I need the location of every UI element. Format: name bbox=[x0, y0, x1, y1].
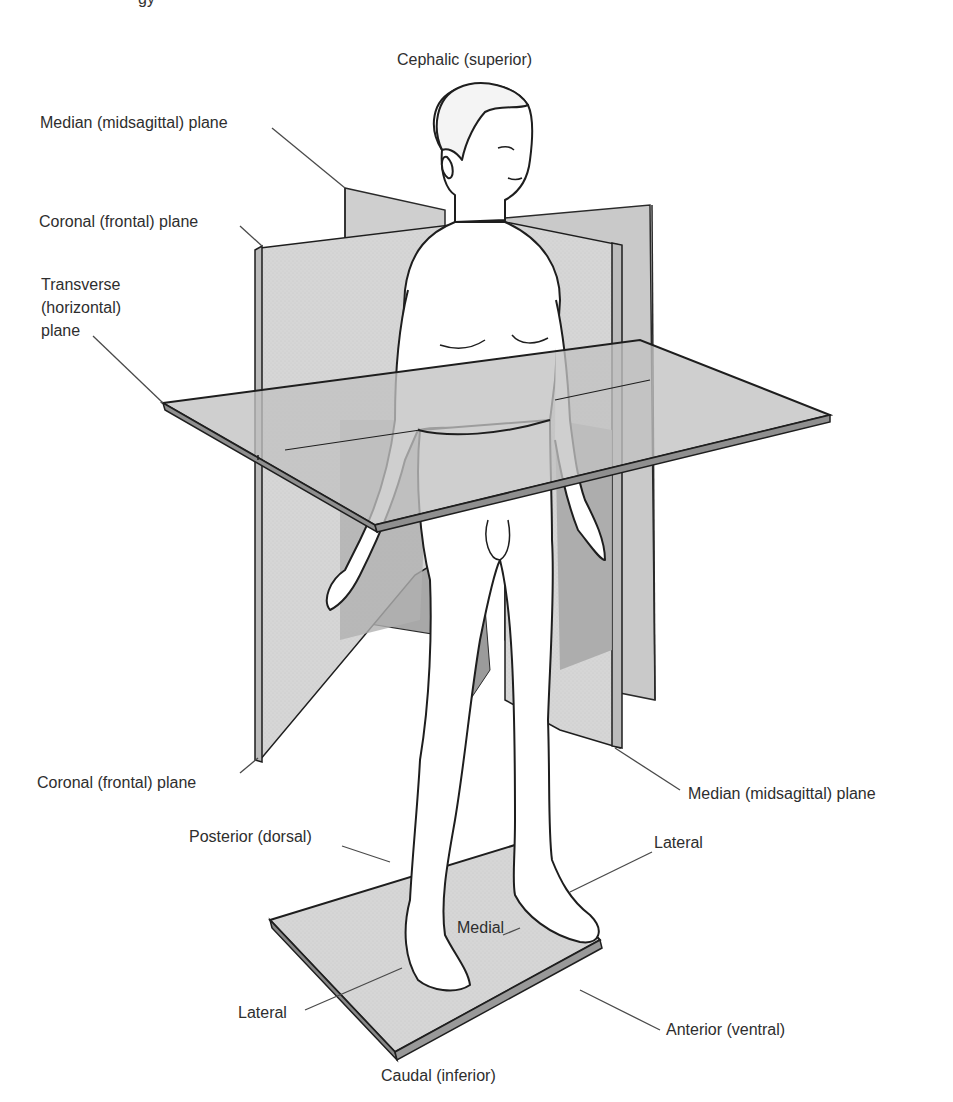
coronal-plane-top-label: Coronal (frontal) plane bbox=[39, 212, 198, 231]
cephalic-label: Cephalic (superior) bbox=[397, 50, 532, 69]
transverse-plane-label-line3: plane bbox=[41, 321, 80, 340]
median-plane-top-label: Median (midsagittal) plane bbox=[40, 113, 228, 132]
lateral-left-label: Lateral bbox=[238, 1003, 287, 1022]
median-plane-bottom-label: Median (midsagittal) plane bbox=[688, 784, 876, 803]
leader-lateral-right bbox=[570, 852, 652, 892]
leader-median-bottom bbox=[615, 748, 680, 790]
leader-transverse bbox=[93, 336, 163, 403]
posterior-label: Posterior (dorsal) bbox=[189, 827, 312, 846]
transverse-plane-label-line1: Transverse bbox=[41, 275, 120, 294]
anterior-label: Anterior (ventral) bbox=[666, 1020, 785, 1039]
leader-median-top bbox=[272, 128, 345, 188]
medial-label: Medial bbox=[457, 918, 504, 937]
leader-coronal-bottom bbox=[240, 758, 258, 773]
coronal-plane-bottom-label: Coronal (frontal) plane bbox=[37, 773, 196, 792]
leader-posterior bbox=[342, 846, 390, 862]
lateral-right-label: Lateral bbox=[654, 833, 703, 852]
transverse-plane-label-line2: (horizontal) bbox=[41, 298, 121, 317]
caudal-label: Caudal (inferior) bbox=[381, 1066, 496, 1085]
leader-coronal-top bbox=[240, 226, 262, 246]
anatomical-planes-figure: gy bbox=[0, 0, 953, 1102]
leader-anterior bbox=[580, 990, 660, 1030]
